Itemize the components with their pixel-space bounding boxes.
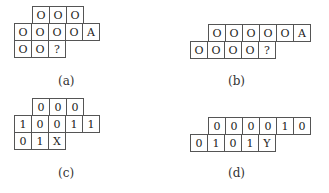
grid-cell: O [66, 6, 84, 24]
grid-cell: O [32, 6, 50, 24]
grid-cell: 0 [14, 132, 32, 150]
panel-d-caption: (d) [228, 166, 245, 180]
grid-cell: O [190, 41, 208, 59]
grid-cell: O [48, 23, 66, 41]
panel-b-row-2: O O O O ? [190, 41, 276, 59]
grid-cell: 1 [82, 115, 100, 133]
grid-cell: 1 [207, 134, 225, 152]
grid-cell: O [49, 6, 67, 24]
grid-cell: A [82, 23, 100, 41]
grid-cell: 1 [241, 134, 259, 152]
grid-cell: O [242, 24, 260, 42]
panel-b-row-1: O O O O O A [208, 24, 311, 42]
panel-b-caption: (b) [228, 74, 245, 88]
grid-cell: 0 [190, 134, 208, 152]
grid-cell: O [207, 41, 225, 59]
panel-a-row-1: O O O [32, 6, 84, 24]
grid-cell: 1 [31, 132, 49, 150]
panel-c-row-1: 0 0 0 [32, 98, 84, 116]
grid-cell: 0 [32, 98, 50, 116]
grid-cell: 1 [65, 115, 83, 133]
grid-cell: 0 [31, 115, 49, 133]
grid-cell: 0 [224, 134, 242, 152]
grid-cell: 0 [49, 98, 67, 116]
grid-cell: O [241, 41, 259, 59]
grid-cell: 1 [14, 115, 32, 133]
panel-c-row-2: 1 0 0 1 1 [14, 115, 100, 133]
grid-cell: ? [258, 41, 276, 59]
panel-c-row-3: 0 1 X [14, 132, 66, 150]
grid-cell: 0 [48, 115, 66, 133]
grid-cell: 1 [276, 117, 294, 135]
grid-cell: X [48, 132, 66, 150]
panel-d-row-1: 0 0 0 0 1 0 [208, 117, 311, 135]
grid-cell: O [31, 40, 49, 58]
panel-c-caption: (c) [58, 166, 74, 180]
grid-cell: O [65, 23, 83, 41]
grid-cell: A [293, 24, 311, 42]
panel-a-caption: (a) [58, 74, 75, 88]
grid-cell: O [259, 24, 277, 42]
grid-cell: O [208, 24, 226, 42]
panel-a-row-3: O O ? [14, 40, 66, 58]
grid-cell: O [14, 23, 32, 41]
grid-cell: 0 [225, 117, 243, 135]
grid-cell: 0 [242, 117, 260, 135]
grid-cell: O [14, 40, 32, 58]
grid-cell: ? [48, 40, 66, 58]
grid-cell: 0 [293, 117, 311, 135]
grid-cell: Y [258, 134, 276, 152]
grid-cell: O [225, 24, 243, 42]
grid-cell: 0 [208, 117, 226, 135]
grid-cell: O [31, 23, 49, 41]
grid-cell: 0 [259, 117, 277, 135]
grid-cell: O [276, 24, 294, 42]
panel-a-row-2: O O O O A [14, 23, 100, 41]
grid-cell: 0 [66, 98, 84, 116]
grid-cell: O [224, 41, 242, 59]
panel-d-row-2: 0 1 0 1 Y [190, 134, 276, 152]
